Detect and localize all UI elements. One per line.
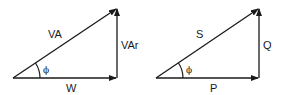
triangle-right: ϕ S P Q (156, 9, 272, 94)
hypotenuse-arrow (156, 9, 258, 78)
angle-label: ϕ (43, 65, 49, 75)
opposite-label: Q (263, 39, 272, 51)
opposite-label: VAr (121, 39, 139, 51)
angle-arc (36, 63, 41, 78)
angle-label: ϕ (186, 65, 192, 75)
angle-arc (179, 63, 184, 78)
power-triangles-diagram: ϕ VA W VAr ϕ S P Q (0, 0, 286, 95)
triangle-left: ϕ VA W VAr (13, 9, 139, 94)
adjacent-label: P (210, 82, 217, 94)
adjacent-label: W (66, 82, 77, 94)
hypotenuse-arrow (13, 9, 116, 78)
hypotenuse-label: VA (48, 28, 63, 40)
hypotenuse-label: S (196, 28, 203, 40)
